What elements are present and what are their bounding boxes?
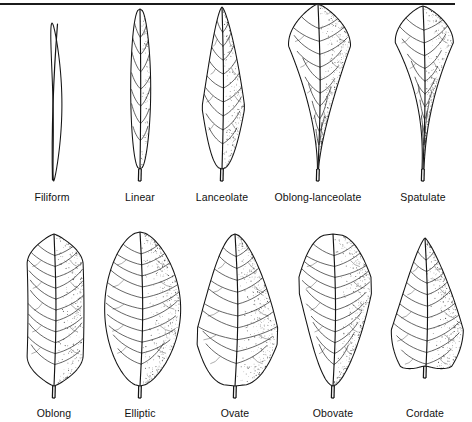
leaf-drawing-spatulate	[387, 4, 459, 183]
leaf-petiole	[331, 386, 334, 398]
leaf-item-oblong: Oblong	[19, 232, 89, 419]
leaf-petiole	[233, 386, 236, 398]
leaf-shape-figure: FiliformLinearLanceolateOblong-lanceolat…	[0, 0, 472, 422]
leaf-drawing-obovate	[290, 232, 376, 400]
leaf-label: Oblong-lanceolate	[275, 192, 362, 203]
leaf-label: Lanceolate	[196, 192, 248, 203]
leaf-drawing-elliptic	[95, 230, 185, 400]
leaf-drawing-filiform	[40, 21, 64, 183]
leaf-petiole	[220, 169, 223, 181]
leaf-petiole	[138, 386, 141, 398]
leaf-label: Spatulate	[400, 192, 445, 203]
leaf-drawing-linear	[123, 7, 157, 183]
leaf-item-elliptic: Elliptic	[95, 230, 185, 419]
leaf-label: Elliptic	[124, 408, 155, 419]
leaf-item-linear: Linear	[123, 7, 157, 203]
leaf-petiole	[316, 169, 319, 181]
leaf-drawing-ovate	[188, 232, 282, 400]
leaf-item-oblong-lanceolate: Oblong-lanceolate	[280, 2, 356, 203]
leaf-item-lanceolate: Lanceolate	[194, 5, 250, 203]
leaf-item-spatulate: Spatulate	[387, 4, 459, 203]
leaf-drawing-oblong-lanceolate	[280, 2, 356, 183]
leaf-item-obovate: Obovate	[290, 232, 376, 419]
leaf-label: Linear	[125, 192, 155, 203]
leaf-label: Oblong	[37, 408, 71, 419]
leaf-drawing-oblong	[19, 232, 89, 400]
leaf-label: Ovate	[221, 408, 250, 419]
leaf-petiole	[421, 169, 424, 181]
leaf-label: Obovate	[313, 408, 353, 419]
leaf-item-filiform: Filiform	[40, 21, 64, 203]
leaf-row-top: FiliformLinearLanceolateOblong-lanceolat…	[0, 12, 472, 202]
leaf-drawing-cordate	[382, 236, 468, 400]
leaf-drawing-lanceolate	[194, 5, 250, 183]
leaf-item-cordate: Cordate	[382, 236, 468, 419]
leaf-item-ovate: Ovate	[188, 232, 282, 419]
leaf-petiole	[138, 169, 141, 181]
leaf-petiole	[52, 386, 55, 398]
leaf-row-bottom: OblongEllipticOvateObovateCordate	[0, 222, 472, 418]
leaf-petiole	[423, 366, 426, 378]
leaf-label: Filiform	[34, 192, 69, 203]
leaf-label: Cordate	[406, 408, 444, 419]
